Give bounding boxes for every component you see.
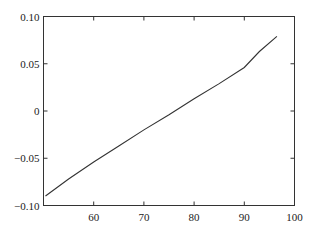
line-chart: 60708090100 −0.10−0.0500.050.10 xyxy=(0,0,317,232)
y-tick-label: −0.10 xyxy=(14,200,40,212)
x-tick-label: 100 xyxy=(286,211,303,223)
plot-frame xyxy=(44,17,295,206)
y-tick-label: −0.05 xyxy=(14,152,40,164)
x-tick-label: 70 xyxy=(138,211,150,223)
x-tick-label: 80 xyxy=(189,211,201,223)
x-tick-label: 60 xyxy=(88,211,100,223)
data-line xyxy=(46,36,277,196)
x-axis-ticks: 60708090100 xyxy=(88,17,303,223)
y-tick-label: 0 xyxy=(34,105,40,117)
y-axis-ticks: −0.10−0.0500.050.10 xyxy=(14,11,294,212)
x-tick-label: 90 xyxy=(239,211,251,223)
y-tick-label: 0.05 xyxy=(20,58,40,70)
y-tick-label: 0.10 xyxy=(20,11,40,23)
